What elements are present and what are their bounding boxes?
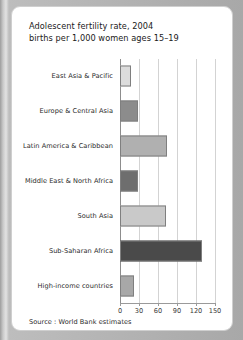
x-tick-label: 120 [190,307,203,315]
x-tick-30 [139,303,140,306]
gridline-90 [177,59,178,303]
bar [120,66,131,87]
category-axis-labels: East Asia & PacificEurope & Central Asia… [29,59,117,303]
category-label: South Asia [77,212,113,220]
gridline-60 [158,59,159,303]
category-label: Latin America & Caribbean [23,142,113,150]
gridline-150 [215,59,216,303]
x-tick-90 [177,303,178,306]
chart-card: Adolescent fertility rate, 2004 births p… [11,6,233,331]
chart-title-block: Adolescent fertility rate, 2004 births p… [29,21,219,44]
x-axis-line [120,303,215,304]
chart-plot-area: East Asia & PacificEurope & Central Asia… [29,59,219,307]
x-tick-label: 90 [173,307,181,315]
bar [120,171,138,192]
gridline-30 [139,59,140,303]
source-note: Source : World Bank estimates [29,318,132,326]
x-tick-120 [196,303,197,306]
bar [120,240,202,261]
chart-title: Adolescent fertility rate, 2004 [29,21,219,33]
x-tick-label: 0 [118,307,122,315]
x-tick-label: 60 [154,307,162,315]
bar [120,136,167,157]
category-label: Europe & Central Asia [40,107,114,115]
category-label: East Asia & Pacific [52,72,113,80]
category-label: High-income countries [38,282,113,290]
bar [120,205,166,226]
x-tick-150 [215,303,216,306]
value-axis-area: 0306090120150 [120,59,215,303]
x-tick-label: 150 [209,307,222,315]
category-label: Sub-Saharan Africa [49,247,113,255]
bar [120,275,134,296]
chart-subtitle: births per 1,000 women ages 15–19 [29,33,219,45]
x-tick-60 [158,303,159,306]
gridline-120 [196,59,197,303]
screenshot-frame: Adolescent fertility rate, 2004 births p… [0,0,243,340]
x-tick-0 [120,303,121,306]
category-label: Middle East & North Africa [25,177,113,185]
bar [120,101,138,122]
x-tick-label: 30 [135,307,143,315]
